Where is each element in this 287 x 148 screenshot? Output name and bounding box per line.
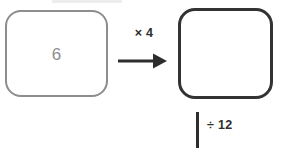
divide-operation-label: ÷ 12 [207,119,232,132]
arrow-down-stem-icon [196,112,199,148]
top-edge-artifact [52,0,122,3]
input-box-value: 6 [7,45,106,62]
output-box[interactable] [178,8,273,99]
diagram-canvas: 6 × 4 ÷ 12 [0,0,287,148]
arrow-right-icon [117,52,169,70]
multiply-operation-label: × 4 [118,27,170,40]
input-box[interactable]: 6 [5,10,108,97]
